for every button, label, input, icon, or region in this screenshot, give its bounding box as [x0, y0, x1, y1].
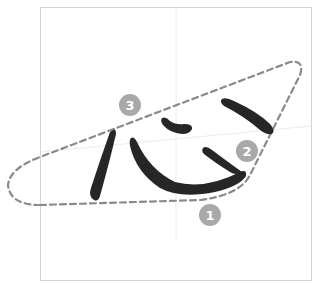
marker-2-label: 2: [242, 144, 251, 159]
marker-3: 3: [119, 94, 141, 116]
marker-3-label: 3: [125, 98, 134, 113]
marker-2: 2: [236, 140, 258, 162]
marker-1: 1: [199, 204, 221, 226]
marker-1-label: 1: [205, 208, 214, 223]
calligraphy-diagram: 3 2 1: [0, 0, 329, 283]
